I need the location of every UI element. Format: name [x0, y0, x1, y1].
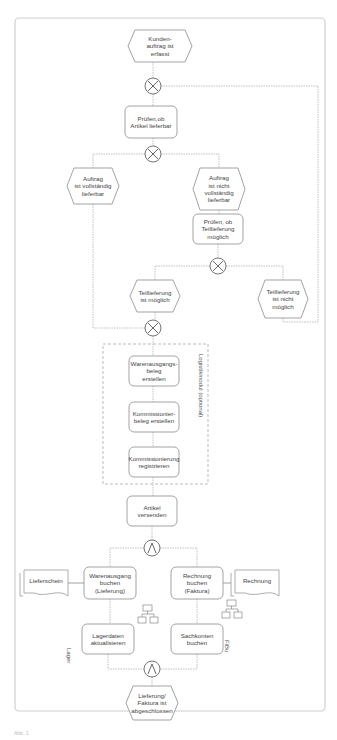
event-label: Lieferung/ Faktura ist abgeschlossen [130, 686, 174, 720]
event-label: Auftrag ist nicht vollständig lieferbar [197, 168, 241, 210]
system-icon-link [226, 606, 232, 612]
connection-line [161, 154, 219, 168]
connection-line [155, 266, 210, 280]
event-label: Auftrag ist vollständig lieferbar [71, 168, 115, 204]
system-icon-link [148, 614, 155, 617]
function-label: Kommissionierung registrieren [130, 447, 178, 477]
system-icon [234, 612, 242, 618]
document-label: Lieferschein [24, 570, 68, 592]
connection-line [283, 318, 305, 322]
connection-line [108, 654, 144, 669]
system-icon-link [232, 609, 239, 612]
connection-line [226, 266, 283, 280]
connection-line [110, 548, 144, 567]
document-shadow [20, 573, 23, 596]
function-label: Warenausgang buchen (Lieferung) [85, 567, 135, 599]
system-icon-link [142, 611, 148, 617]
figure-caption: Abb. 1 [14, 730, 28, 736]
system-icon [222, 612, 230, 618]
function-label: Rechnung buchen (Faktura) [172, 567, 222, 599]
function-label: Kommissionier- beleg erstellen [130, 402, 178, 432]
system-icon [143, 605, 152, 611]
event-label: Teillieferung ist möglich [134, 280, 176, 312]
system-icon [138, 617, 146, 623]
document-shadow [231, 573, 234, 596]
system-icon [150, 617, 158, 623]
event-label: Teillieferung ist nicht möglich [262, 280, 304, 318]
connection-line [160, 548, 197, 567]
logistics-module-label: Logistikmodul (optional) [198, 354, 204, 417]
function-label: Sachkonten buchen [172, 624, 222, 654]
function-label: Prüfen, ob Teillieferung möglich [194, 214, 242, 244]
function-label: Lagerdaten aktualisieren [83, 624, 133, 654]
org-unit-label: Lager [66, 648, 72, 663]
connection-line [93, 154, 145, 168]
system-icon [227, 600, 236, 606]
connection-line [160, 654, 197, 669]
event-label: Kunden- auftrag ist erfasst [132, 30, 188, 62]
function-label: Prüfen,ob Artikel lieferbar [126, 106, 176, 138]
document-label: Rechnung [235, 570, 279, 592]
function-label: Artikel versenden [128, 496, 176, 526]
function-label: Warenausgangs- beleg erstellen [130, 356, 178, 386]
org-unit-label: FiBu [224, 640, 230, 652]
